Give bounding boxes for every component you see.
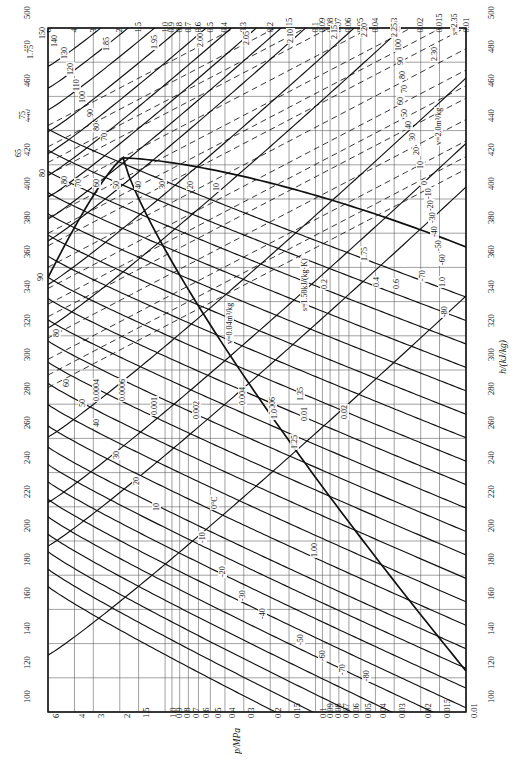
pressure-tick-label: 4 — [78, 714, 87, 718]
enthalpy-tick-label: 320 — [486, 314, 496, 327]
enthalpy-tick-label: 260 — [486, 417, 496, 430]
curve-value-label: 80 — [52, 328, 61, 338]
enthalpy-tick-label: 460 — [486, 75, 496, 88]
pressure-tick-label: 2 — [123, 714, 132, 718]
pressure-tick-label: 0.5 — [214, 707, 223, 718]
curve-annotation: 1.25 — [290, 434, 299, 450]
curve-value-label: 20 — [132, 476, 141, 486]
curve-value-label: 80 — [92, 122, 101, 132]
pressure-tick-label: 4 — [69, 28, 78, 32]
enthalpy-tick-label: 480 — [486, 40, 496, 53]
curve-value-label: 1.95 — [150, 34, 159, 50]
enthalpy-tick-label: 160 — [22, 588, 32, 601]
curve-value-label: 90 — [36, 272, 45, 282]
curve-value-label: -50 — [434, 239, 443, 252]
pressure-tick-label: 0.015 — [435, 13, 444, 32]
enthalpy-tick-label: 420 — [22, 143, 32, 156]
curve-value-label: 2.15 — [330, 24, 339, 40]
curve-value-label: 80 — [398, 70, 407, 80]
curve-value-label: 2.25 — [390, 22, 399, 38]
curve-value-label: 2.10 — [286, 28, 295, 44]
curve-annotation: 0°C — [210, 495, 219, 510]
curve-value-label: 75 — [18, 110, 27, 120]
curve-value-label: 0 — [420, 180, 429, 186]
curve-value-label: 30 — [408, 132, 417, 142]
curve-value-label: -60 — [318, 649, 327, 662]
curve-value-label: 0.0006 — [118, 378, 127, 402]
pressure-tick-label: 0.2 — [265, 22, 274, 33]
enthalpy-tick-label: 400 — [22, 177, 32, 190]
curve-value-label: -80 — [440, 305, 449, 318]
curve-value-label: -40 — [258, 607, 267, 620]
curve-value-label: 1.0 — [438, 276, 447, 288]
pressure-tick-label: 0.06 — [344, 18, 353, 33]
curve-value-label: -70 — [418, 269, 427, 282]
curve-value-label: 1.0 — [270, 408, 279, 420]
curve-value-label: -30 — [428, 211, 437, 224]
enthalpy-tick-label: 300 — [486, 348, 496, 361]
pressure-tick-label: 3 — [88, 28, 97, 32]
curve-value-label: 2.05 — [242, 30, 251, 46]
curve-value-label: 2.30 — [430, 46, 439, 62]
pressure-tick-label: 0.2 — [274, 707, 283, 718]
enthalpy-tick-label: 340 — [22, 280, 32, 293]
y-axis-title: h/(kJ/kg) — [498, 340, 508, 376]
curve-value-label: -30 — [238, 589, 247, 602]
curve-value-label: 60 — [396, 96, 405, 106]
curve-value-label: 50 — [400, 108, 409, 118]
curve-value-label: 10 — [212, 182, 221, 192]
curve-value-label: 0.004 — [238, 386, 247, 406]
curve-value-label: 70 — [100, 132, 109, 142]
curve-value-label: -50 — [296, 633, 305, 646]
curve-value-label: 10 — [416, 160, 425, 170]
curve-value-label: 150 — [38, 26, 47, 40]
curve-annotation: 1.00 — [310, 542, 319, 558]
enthalpy-tick-label: 280 — [22, 382, 32, 395]
pressure-tick-label: 1.5 — [142, 707, 151, 718]
enthalpy-tick-label: 500 — [486, 6, 496, 19]
curve-value-label: 130 — [60, 46, 69, 60]
pressure-tick-label: 0.01 — [470, 703, 479, 718]
curve-value-label: -70 — [338, 663, 347, 676]
enthalpy-tick-label: 460 — [22, 75, 32, 88]
curve-value-label: 60 — [92, 178, 101, 188]
pressure-tick-label: 0.04 — [370, 18, 379, 33]
enthalpy-tick-label: 240 — [486, 451, 496, 464]
enthalpy-tick-label: 500 — [22, 6, 32, 19]
curve-value-label: 50 — [112, 180, 121, 190]
curve-value-label: 65 — [14, 148, 23, 158]
curve-value-label: 90 — [86, 108, 95, 118]
pressure-tick-label: 0.6 — [193, 22, 202, 33]
curve-value-label: 90 — [396, 56, 405, 66]
curve-value-label: 50 — [78, 398, 87, 408]
ph-diagram-page: 64321.51.00.90.80.70.60.50.40.30.20.150.… — [0, 0, 517, 761]
pressure-tick-label: 0.4 — [220, 22, 229, 33]
curve-value-label: s=2.35 — [450, 12, 459, 36]
curve-annotation: v=0.04m³/kg — [225, 302, 234, 345]
curve-value-label: 1.75 — [26, 44, 35, 60]
enthalpy-tick-label: 240 — [22, 451, 32, 464]
enthalpy-tick-label: 420 — [486, 143, 496, 156]
curve-value-label: -10 — [198, 531, 207, 544]
pressure-tick-label: 0.03 — [398, 703, 407, 718]
pressure-tick-label: 1.5 — [134, 22, 143, 33]
enthalpy-tick-label: 140 — [22, 622, 32, 635]
enthalpy-tick-label: 120 — [486, 656, 496, 669]
curve-value-label: -40 — [430, 225, 439, 238]
enthalpy-tick-label: 200 — [486, 519, 496, 532]
pressure-tick-label: 0.04 — [379, 703, 388, 718]
pressure-tick-label: 0.02 — [424, 703, 433, 718]
curve-value-label: 100 — [394, 38, 403, 52]
curve-value-label: 0.002 — [192, 400, 201, 420]
curve-value-label: 20 — [186, 180, 195, 190]
pressure-tick-label: 0.4 — [228, 707, 237, 718]
curve-value-label: 0.02 — [340, 404, 349, 420]
enthalpy-tick-label: 140 — [486, 622, 496, 635]
curve-value-label: -80 — [362, 669, 371, 682]
curve-annotation: 1.35 — [296, 386, 305, 402]
pressure-tick-label: 6 — [52, 714, 61, 718]
curve-value-label: 0.01 — [300, 406, 309, 422]
curve-value-label: 70 — [400, 84, 409, 94]
pressure-tick-label: 0.5 — [205, 22, 214, 33]
pressure-tick-label: 0.15 — [293, 703, 302, 718]
